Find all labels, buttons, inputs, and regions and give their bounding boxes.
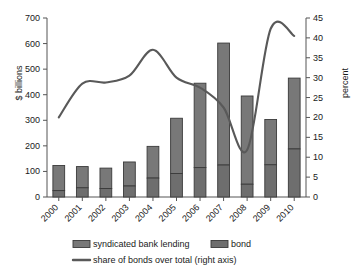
y-axis-left-ticks: 0100200300400500600700 xyxy=(25,13,47,202)
legend-swatch-bond xyxy=(211,241,228,248)
bar-line-chart: 0100200300400500600700 05101520253035404… xyxy=(0,0,355,272)
bar-segment-syndicated-bank-lending xyxy=(171,118,183,173)
chart-container: $ billions percent 010020030040050060070… xyxy=(0,0,355,272)
bar-segment-bond xyxy=(194,168,206,197)
bar-segment-bond xyxy=(241,184,253,197)
x-axis-tick-label: 2010 xyxy=(274,202,295,223)
x-axis-tick-label: 2009 xyxy=(251,202,272,223)
bar-segment-syndicated-bank-lending xyxy=(288,78,300,149)
x-axis-tick-label: 2005 xyxy=(157,202,178,223)
y-axis-right-tick-label: 5 xyxy=(313,172,318,182)
y-axis-right-tick-label: 15 xyxy=(313,132,323,142)
y-axis-right-tick-label: 35 xyxy=(313,53,323,63)
bar-segment-syndicated-bank-lending xyxy=(100,168,112,188)
bar-segment-bond xyxy=(265,165,277,197)
x-axis-tick-label: 2008 xyxy=(227,202,248,223)
y-axis-left-title: $ billions xyxy=(14,38,24,128)
x-axis-tick-label: 2000 xyxy=(39,202,60,223)
bar-segment-syndicated-bank-lending xyxy=(194,83,206,167)
x-axis-tick-label: 2006 xyxy=(180,202,201,223)
y-axis-right-tick-label: 10 xyxy=(313,152,323,162)
y-axis-right-tick-label: 40 xyxy=(313,33,323,43)
bar-segment-bond xyxy=(218,165,230,197)
legend-label-bond: bond xyxy=(231,239,251,249)
y-axis-right-tick-label: 25 xyxy=(313,93,323,103)
y-axis-left-tick-label: 400 xyxy=(25,90,40,100)
y-axis-right-tick-label: 0 xyxy=(313,192,318,202)
legend-label-syndicated-bank-lending: syndicated bank lending xyxy=(93,239,190,249)
y-axis-left-tick-label: 700 xyxy=(25,13,40,23)
x-axis-tick-label: 2003 xyxy=(110,202,131,223)
y-axis-left-tick-label: 200 xyxy=(25,141,40,151)
y-axis-right-tick-label: 45 xyxy=(313,13,323,23)
y-axis-right-ticks: 051015202530354045 xyxy=(306,13,323,202)
bar-segment-bond xyxy=(76,188,88,197)
bar-segment-syndicated-bank-lending xyxy=(53,166,65,191)
bar-segment-bond xyxy=(53,191,65,197)
bar-segment-bond xyxy=(171,173,183,197)
x-axis-tick-label: 2001 xyxy=(62,202,83,223)
y-axis-right-title: percent xyxy=(340,38,350,128)
x-axis-tick-label: 2007 xyxy=(204,202,225,223)
y-axis-right-tick-label: 30 xyxy=(313,73,323,83)
legend-label-share-of-bonds: share of bonds over total (right axis) xyxy=(93,255,237,265)
x-axis-ticks: 2000200120022003200420052006200720082009… xyxy=(39,197,296,224)
chart-legend: syndicated bank lendingbondshare of bond… xyxy=(73,239,251,265)
bar-segment-syndicated-bank-lending xyxy=(265,120,277,165)
bar-segment-bond xyxy=(124,186,136,197)
y-axis-left-tick-label: 500 xyxy=(25,64,40,74)
bar-segment-syndicated-bank-lending xyxy=(124,162,136,186)
legend-swatch-syndicated-bank-lending xyxy=(73,241,90,248)
bar-segment-bond xyxy=(147,178,159,197)
bar-segment-syndicated-bank-lending xyxy=(76,167,88,188)
y-axis-right-tick-label: 20 xyxy=(313,112,323,122)
x-axis-tick-label: 2004 xyxy=(133,202,154,223)
y-axis-left-tick-label: 100 xyxy=(25,166,40,176)
y-axis-left-tick-label: 300 xyxy=(25,115,40,125)
bar-segment-bond xyxy=(288,149,300,197)
bar-segment-syndicated-bank-lending xyxy=(147,146,159,178)
y-axis-left-tick-label: 600 xyxy=(25,39,40,49)
bar-segment-bond xyxy=(100,189,112,197)
y-axis-left-tick-label: 0 xyxy=(35,192,40,202)
x-axis-tick-label: 2002 xyxy=(86,202,107,223)
